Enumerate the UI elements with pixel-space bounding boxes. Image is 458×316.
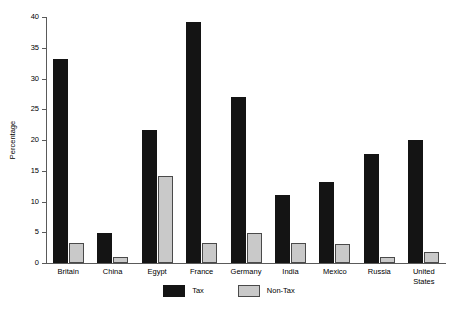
bar-non-tax-france — [202, 243, 217, 263]
bar-tax-mexico — [319, 182, 334, 263]
y-tick-mark — [42, 263, 46, 264]
chart-title — [0, 0, 458, 1]
bar-tax-egypt — [142, 130, 157, 263]
bar-tax-india — [275, 195, 290, 263]
y-axis-label: Percentage — [6, 17, 18, 263]
y-tick-label: 40 — [31, 12, 39, 21]
bar-non-tax-united-states — [424, 252, 439, 263]
bar-tax-germany — [231, 97, 246, 263]
bar-non-tax-egypt — [158, 176, 173, 263]
bar-non-tax-germany — [247, 233, 262, 263]
x-axis-label-france: France — [179, 267, 223, 277]
x-axis-label-britain: Britain — [46, 267, 90, 277]
x-axis-label-mexico: Mexico — [313, 267, 357, 277]
bar-chart-figure: Percentage 0510152025303540 BritainChina… — [0, 0, 458, 316]
legend-label-tax: Tax — [192, 286, 204, 296]
x-axis-label-russia: Russia — [357, 267, 401, 277]
bar-non-tax-india — [291, 243, 306, 263]
legend-swatch-non-tax — [238, 285, 260, 297]
x-axis-label-united-states: United States — [402, 267, 446, 287]
legend-item-tax[interactable]: Tax — [163, 285, 204, 297]
legend-label-non-tax: Non-Tax — [267, 286, 295, 296]
y-axis-line — [46, 17, 47, 263]
y-tick-mark — [42, 17, 46, 18]
bar-tax-united-states — [408, 140, 423, 263]
legend-item-non-tax[interactable]: Non-Tax — [238, 285, 295, 297]
bar-non-tax-britain — [69, 243, 84, 263]
y-tick-label: 10 — [31, 197, 39, 206]
y-tick-label: 15 — [31, 166, 39, 175]
y-tick-mark — [42, 202, 46, 203]
y-tick-label: 5 — [35, 227, 39, 236]
x-axis-label-china: China — [90, 267, 134, 277]
x-axis-label-india: India — [268, 267, 312, 277]
bar-tax-russia — [364, 154, 379, 263]
x-axis-label-germany: Germany — [224, 267, 268, 277]
bar-tax-britain — [53, 59, 68, 263]
y-tick-label: 25 — [31, 104, 39, 113]
y-tick-label: 35 — [31, 43, 39, 52]
chart-legend: TaxNon-Tax — [0, 285, 458, 297]
bar-non-tax-china — [113, 257, 128, 263]
y-tick-mark — [42, 79, 46, 80]
y-tick-mark — [42, 109, 46, 110]
bar-non-tax-russia — [380, 257, 395, 263]
bar-non-tax-mexico — [335, 244, 350, 263]
y-axis-label-text: Percentage — [8, 121, 17, 159]
legend-swatch-tax — [163, 285, 185, 297]
y-tick-mark — [42, 232, 46, 233]
x-axis-line — [46, 263, 446, 264]
y-tick-mark — [42, 140, 46, 141]
x-axis-label-egypt: Egypt — [135, 267, 179, 277]
y-tick-mark — [42, 171, 46, 172]
y-tick-label: 20 — [31, 135, 39, 144]
plot-area: 0510152025303540 BritainChinaEgyptFrance… — [46, 17, 446, 263]
y-tick-label: 30 — [31, 74, 39, 83]
bar-tax-france — [186, 22, 201, 263]
bar-tax-china — [97, 233, 112, 263]
y-tick-label: 0 — [35, 258, 39, 267]
y-tick-mark — [42, 48, 46, 49]
